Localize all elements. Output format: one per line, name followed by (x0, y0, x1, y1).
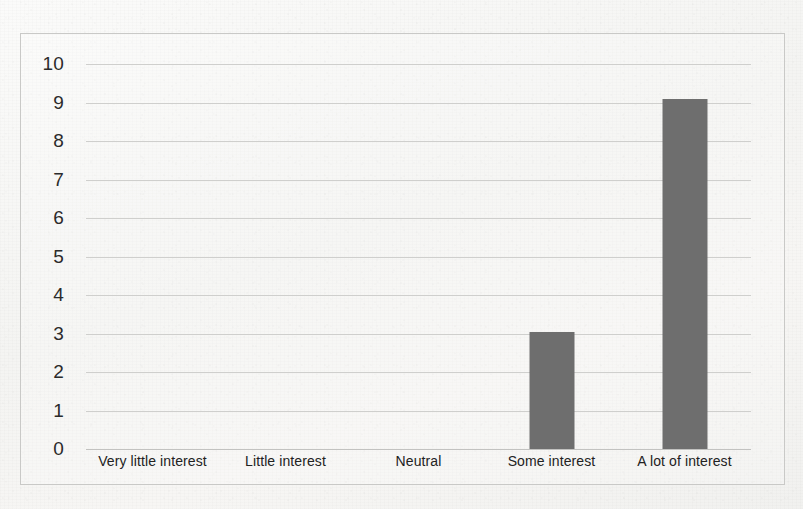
y-axis-tick-label: 10 (42, 53, 64, 75)
bar (529, 332, 574, 449)
plot-area: 109876543210 (86, 64, 751, 449)
bars-group (86, 64, 751, 449)
y-axis-tick-label: 7 (53, 169, 64, 191)
bar-slot (352, 64, 485, 449)
y-axis-tick-label: 6 (53, 207, 64, 229)
gridline (86, 449, 751, 450)
bar-slot (86, 64, 219, 449)
scanned-page-background: 109876543210 Very little interestLittle … (0, 0, 803, 509)
y-axis-tick-label: 2 (53, 361, 64, 383)
y-axis-tick-label: 8 (53, 130, 64, 152)
bar-slot (219, 64, 352, 449)
x-axis-labels: Very little interestLittle interestNeutr… (86, 453, 751, 483)
x-axis-category-label: Some interest (508, 453, 596, 469)
y-axis-tick-label: 9 (53, 92, 64, 114)
chart-frame: 109876543210 Very little interestLittle … (20, 33, 785, 485)
y-axis-tick-label: 3 (53, 323, 64, 345)
bar-slot (485, 64, 618, 449)
x-axis-category-label: Very little interest (98, 453, 207, 469)
y-axis-tick-label: 0 (53, 438, 64, 460)
x-axis-category-label: Neutral (396, 453, 442, 469)
y-axis-tick-label: 4 (53, 284, 64, 306)
y-axis-tick-label: 5 (53, 246, 64, 268)
bar (662, 99, 707, 449)
bar-slot (618, 64, 751, 449)
x-axis-category-label: A lot of interest (637, 453, 731, 469)
y-axis-tick-label: 1 (53, 400, 64, 422)
x-axis-category-label: Little interest (245, 453, 326, 469)
